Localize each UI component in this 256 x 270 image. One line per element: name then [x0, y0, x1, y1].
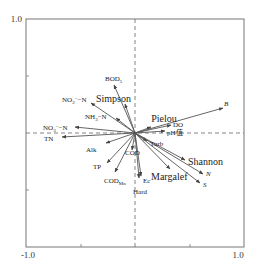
label-N: N	[205, 170, 211, 178]
label-simpson: Simpson	[96, 93, 131, 104]
label-no2n: NO2−−N	[62, 96, 86, 105]
label-turb: Turb	[150, 140, 164, 148]
label-cod: COD	[125, 149, 140, 157]
label-ec: Ec	[143, 177, 150, 185]
label-pielou: Pielou	[151, 113, 177, 124]
arrow-no3n	[75, 127, 135, 133]
label-tn: TN	[44, 135, 53, 143]
y-top-label: 1.0	[11, 14, 23, 24]
biplot-chart: 1.0 -1.0 1.0 B DO pH值 Pielou Turb Shanno…	[0, 0, 256, 270]
label-shannon: Shannon	[188, 156, 223, 167]
label-hard: Hard	[133, 188, 147, 196]
label-codmn: CODMn	[104, 177, 126, 186]
x-right-label: 1.0	[232, 250, 244, 260]
label-pH: pH值	[167, 128, 183, 137]
label-S: S	[203, 181, 207, 189]
x-left-label: -1.0	[21, 250, 36, 260]
label-B: B	[224, 100, 229, 108]
label-alk: Alk	[86, 146, 97, 154]
label-tp: TP	[93, 163, 101, 171]
label-margalef: Margalef	[151, 171, 188, 182]
label-no3n: NO3−−N	[43, 124, 67, 133]
label-bod5: BOD5	[105, 75, 123, 84]
label-nh3n: NH3−N	[85, 113, 107, 122]
